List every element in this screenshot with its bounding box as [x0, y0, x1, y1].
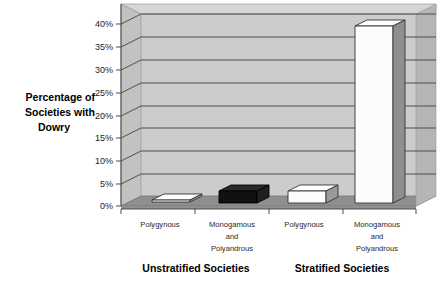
y-tick-label-25: 25% [95, 88, 113, 98]
chart-canvas: 40% 35% 30% 25% 20% 15% 10% 5% 0% Percen… [0, 0, 443, 288]
x-category-label-4-line-3: Polyandrous [356, 244, 398, 253]
bar-4-monogamous-polyandrous-stratified[interactable] [355, 20, 405, 203]
x-category-label-4-line-1: Monogamous [354, 220, 400, 229]
x-category-label-2-line-1: Monogamous [209, 220, 255, 229]
bar-3-polygynous-stratified[interactable] [288, 185, 338, 203]
y-tick-label-5: 5% [100, 179, 113, 189]
y-tick-labels: 40% 35% 30% 25% 20% 15% 10% 5% 0% [95, 19, 113, 211]
x-axis [121, 209, 416, 214]
y-axis-title-line-3: Dowry [38, 121, 70, 133]
y-tick-label-0: 0% [100, 201, 113, 211]
group-label-unstratified: Unstratified Societies [142, 262, 250, 274]
x-category-label-4-line-2: and [371, 232, 384, 241]
y-tick-label-40: 40% [95, 19, 113, 29]
y-tick-label-15: 15% [95, 133, 113, 143]
bar-2-monogamous-polyandrous-unstratified[interactable] [219, 185, 269, 203]
bar-4-side-face [393, 20, 405, 203]
x-category-label-1-line-1: Polygynous [140, 220, 179, 229]
y-tick-label-20: 20% [95, 111, 113, 121]
bar-3-front-face [288, 191, 326, 203]
x-group-labels: Unstratified Societies Stratified Societ… [142, 262, 389, 274]
y-axis-title-line-1: Percentage of [26, 91, 96, 103]
plot-right-side-wall [416, 4, 436, 206]
plot-ceiling-face [121, 4, 436, 14]
bar-4-front-face [355, 26, 393, 203]
x-category-label-3-line-1: Polygynous [284, 220, 323, 229]
y-axis-title-line-2: Societies with [25, 106, 95, 118]
bar-chart: 40% 35% 30% 25% 20% 15% 10% 5% 0% Percen… [0, 0, 443, 288]
x-category-label-2-line-3: Polyandrous [211, 244, 253, 253]
bar-1-front-face [152, 200, 190, 202]
y-axis [116, 4, 121, 206]
group-label-stratified: Stratified Societies [295, 262, 390, 274]
x-category-label-2-line-2: and [226, 232, 239, 241]
x-category-labels: Polygynous Monogamous and Polyandrous Po… [140, 220, 400, 253]
bar-2-front-face [219, 191, 257, 203]
y-tick-label-10: 10% [95, 156, 113, 166]
y-tick-label-30: 30% [95, 65, 113, 75]
y-axis-title: Percentage of Societies with Dowry [25, 91, 96, 133]
y-tick-label-35: 35% [95, 42, 113, 52]
